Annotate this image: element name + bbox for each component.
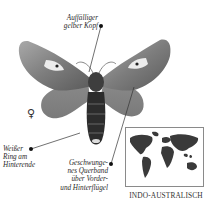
- distribution-map: [125, 127, 204, 187]
- label-curved-band: Geschwunge- nes Querband über Vorder- un…: [50, 159, 108, 192]
- leader-line-ring: [31, 133, 80, 149]
- female-symbol: ♀: [27, 107, 35, 120]
- world-map-icon: [126, 128, 203, 186]
- label-white-ring: Weißer Ring am Hinterende: [3, 145, 35, 170]
- label-yellow-head: Auffälliger gelber Kopf: [58, 14, 98, 30]
- region-caption: INDO-AUSTRALISCH: [124, 191, 208, 200]
- moth-thorax: [88, 72, 104, 92]
- moth-abdomen: [87, 92, 106, 145]
- leader-line-head: [89, 26, 101, 72]
